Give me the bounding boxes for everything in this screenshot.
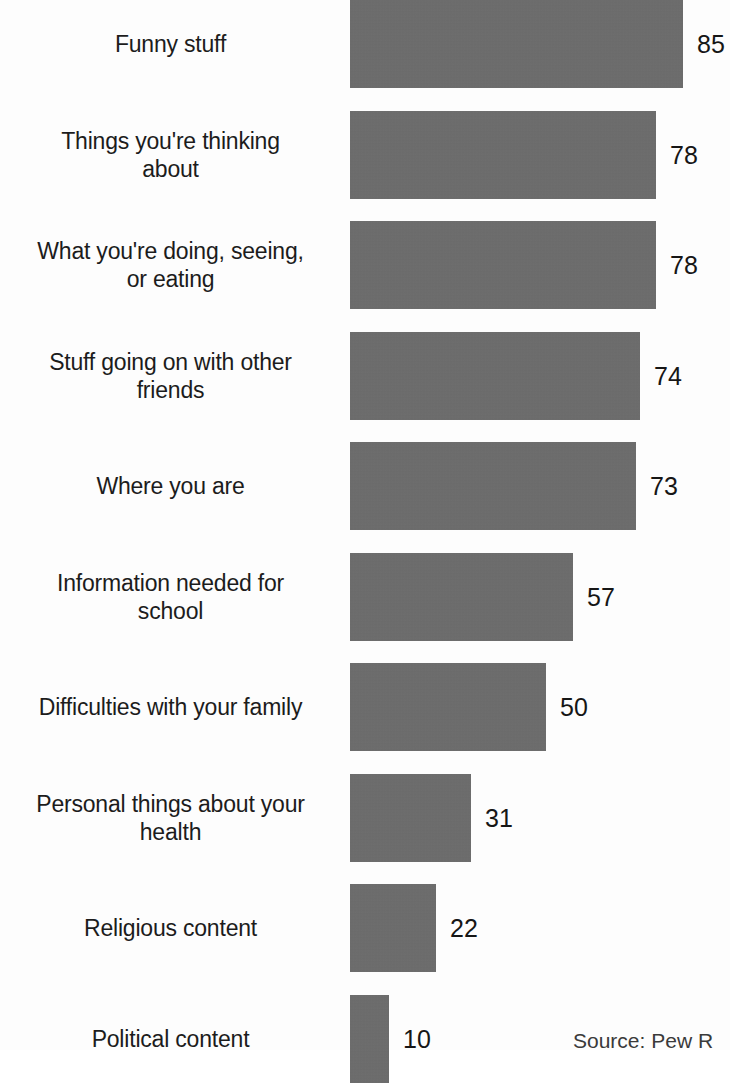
bar (350, 663, 546, 751)
bar-row: Funny stuff85 (0, 0, 730, 88)
bar-value-label: 78 (670, 253, 698, 278)
bar-row: Stuff going on with other friends74 (0, 332, 730, 420)
category-label: Funny stuff (0, 30, 341, 58)
bar-value-label: 78 (670, 143, 698, 168)
bar-rect (350, 663, 546, 751)
category-label: What you're doing, seeing, or eating (0, 237, 341, 293)
bar-row: Difficulties with your family50 (0, 663, 730, 751)
bar-row: Where you are73 (0, 442, 730, 530)
bar-rect (350, 995, 389, 1083)
bar-value-label: 73 (650, 474, 678, 499)
category-label: Political content (0, 1025, 341, 1053)
category-label: Stuff going on with other friends (0, 348, 341, 404)
bar-rect (350, 332, 640, 420)
category-label: Religious content (0, 914, 341, 942)
bar (350, 995, 389, 1083)
bar-value-label: 22 (450, 916, 478, 941)
category-label: Difficulties with your family (0, 693, 341, 721)
bar-rect (350, 0, 683, 88)
bar-value-label: 57 (587, 585, 615, 610)
bar (350, 221, 656, 309)
bar (350, 774, 471, 862)
category-label: Things you're thinking about (0, 127, 341, 183)
bar-rect (350, 442, 636, 530)
bar (350, 884, 436, 972)
bar-row: Religious content22 (0, 884, 730, 972)
bar-row: Things you're thinking about78 (0, 111, 730, 199)
bar-row: Information needed for school57 (0, 553, 730, 641)
bar-rect (350, 553, 573, 641)
category-label: Information needed for school (0, 569, 341, 625)
bar (350, 111, 656, 199)
bar-row: Personal things about your health31 (0, 774, 730, 862)
source-note: Source: Pew R (573, 1029, 713, 1053)
bar (350, 332, 640, 420)
bar (350, 0, 683, 88)
bar-value-label: 10 (403, 1027, 431, 1052)
bar-value-label: 74 (654, 364, 682, 389)
bar-rect (350, 884, 436, 972)
bar-value-label: 50 (560, 695, 588, 720)
bar-row: What you're doing, seeing, or eating78 (0, 221, 730, 309)
bar-rect (350, 774, 471, 862)
bar (350, 553, 573, 641)
bar-rect (350, 111, 656, 199)
bar-rect (350, 221, 656, 309)
bar-value-label: 85 (697, 32, 725, 57)
category-label: Where you are (0, 472, 341, 500)
category-label: Personal things about your health (0, 790, 341, 846)
bar (350, 442, 636, 530)
bar-value-label: 31 (485, 806, 513, 831)
